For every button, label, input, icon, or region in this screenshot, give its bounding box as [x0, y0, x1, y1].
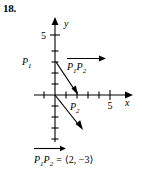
figure-container: 18. [0, 0, 142, 173]
y-axis-arrowhead [52, 17, 59, 25]
y-tick-label-5: 5 [41, 30, 46, 41]
y-axis-label: y [63, 18, 69, 29]
point-label-p2: P2 [69, 101, 80, 115]
x-tick-label-5: 5 [108, 100, 113, 111]
point-label-p1: P1 [21, 56, 32, 70]
x-axis-label: x [124, 97, 130, 108]
inline-vector-label-p1p2: P1P2 [66, 61, 87, 75]
vector-equation: P1P2=⟨2, −3⟩ [33, 154, 93, 168]
coordinate-plane-graphic: y x 5 5 P1 P2 P1P2 P1P2=⟨2, −3⟩ [0, 0, 142, 173]
equation-overbar-arrow [34, 146, 66, 152]
